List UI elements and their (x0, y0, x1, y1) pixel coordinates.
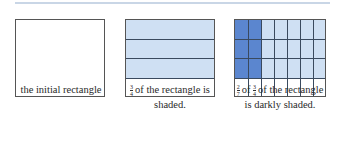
row-divider (235, 39, 325, 40)
caption-of: of (242, 84, 251, 95)
fraction-denominator: 4 (253, 91, 256, 97)
caption-three-quarters: 3 4 of the rectangle is shaded. (111, 82, 229, 112)
fraction-three-quarters: 3 4 (130, 84, 133, 97)
row-divider (126, 39, 214, 40)
row-divider (235, 58, 325, 59)
row-divider (126, 58, 214, 59)
fraction-numerator: 2 (237, 84, 240, 91)
fraction-three-quarters: 3 4 (253, 84, 256, 97)
caption-line1: of the rectangle (258, 84, 323, 95)
caption-initial-text: the initial rectangle (20, 84, 101, 95)
caption-two-sevenths: 2 7 of 3 4 of the rectangle is darkly sh… (221, 82, 339, 112)
fraction-two-sevenths: 2 7 (237, 84, 240, 97)
fraction-numerator: 3 (130, 84, 133, 91)
caption-line2: shaded. (154, 99, 186, 110)
fraction-denominator: 4 (130, 91, 133, 97)
caption-line2: is darkly shaded. (245, 99, 316, 110)
fraction-numerator: 3 (253, 84, 256, 91)
caption-line1: of the rectangle is (135, 84, 210, 95)
fraction-denominator: 7 (237, 91, 240, 97)
caption-initial: the initial rectangle (2, 82, 120, 97)
row-divider (126, 78, 214, 79)
top-divider-rule (15, 2, 330, 4)
light-shaded-region (126, 20, 214, 78)
row-divider (235, 78, 325, 79)
